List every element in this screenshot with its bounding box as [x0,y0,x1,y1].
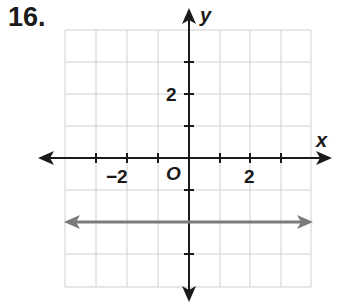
x-axis-label: x [315,129,328,151]
x-tick-label-neg2: −2 [106,166,128,187]
x-axis [48,153,322,163]
coordinate-plane: y x O −2 2 2 [0,0,349,306]
origin-label: O [166,163,181,184]
y-axis-label: y [199,4,212,26]
y-axis [184,16,194,292]
y-tick-label-2: 2 [166,84,177,105]
x-tick-label-2: 2 [244,166,255,187]
